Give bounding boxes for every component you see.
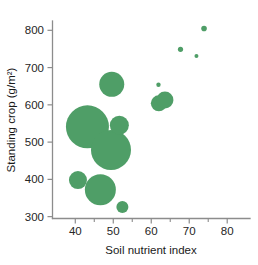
y-tick-label: 300 [25, 211, 44, 223]
bubble-point [178, 47, 183, 52]
x-axis-tick-labels: 4050607080 [69, 225, 234, 237]
bubble-series [66, 26, 207, 213]
bubble-chart-figure: 300400500600700800 4050607080 Soil nutri… [0, 0, 258, 265]
y-tick-label: 500 [25, 136, 44, 148]
bubble-point [156, 92, 173, 109]
x-tick-label: 60 [145, 225, 158, 237]
bubble-point [194, 54, 198, 58]
plot-area: 300400500600700800 4050607080 Soil nutri… [0, 0, 258, 265]
bubble-point [156, 83, 160, 87]
x-tick-label: 70 [183, 225, 196, 237]
x-tick-label: 40 [69, 225, 82, 237]
bubble-point [99, 72, 124, 97]
y-axis-ticks [48, 30, 53, 216]
x-axis-ticks [75, 219, 227, 224]
y-axis-title: Standing crop (g/m²) [5, 67, 17, 172]
y-tick-label: 400 [25, 173, 44, 185]
x-axis-title: Soil nutrient index [105, 244, 197, 256]
y-axis-tick-labels: 300400500600700800 [25, 24, 44, 222]
y-tick-label: 600 [25, 99, 44, 111]
bubble-point [91, 130, 131, 170]
y-tick-label: 800 [25, 24, 44, 36]
y-tick-label: 700 [25, 62, 44, 74]
bubble-point [69, 171, 87, 189]
x-tick-label: 80 [221, 225, 234, 237]
bubble-point [201, 26, 207, 32]
bubble-point [116, 201, 128, 213]
bubble-point [110, 116, 129, 135]
bubble-point [85, 174, 116, 205]
x-tick-label: 50 [107, 225, 120, 237]
